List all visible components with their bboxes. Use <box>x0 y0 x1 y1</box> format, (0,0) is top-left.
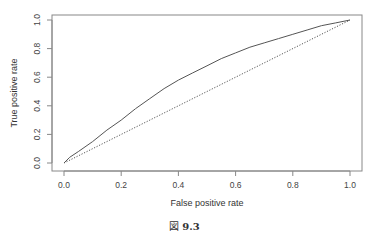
y-tick-label: 0.6 <box>32 71 42 83</box>
roc-chart: 0.00.20.40.60.81.0 0.00.20.40.60.81.0 Fa… <box>0 0 369 238</box>
plot-frame <box>52 15 362 171</box>
baseline-diagonal-line <box>64 20 350 163</box>
y-tick-label: 0.2 <box>32 128 42 140</box>
y-tick-label: 0.0 <box>32 157 42 169</box>
x-tick-label: 0.6 <box>230 180 242 190</box>
series-layer <box>64 20 350 163</box>
figure-caption: 図9.3 <box>0 218 369 233</box>
x-tick-label: 0.2 <box>115 180 127 190</box>
figure-label: 図 <box>169 221 179 232</box>
y-tick-label: 0.4 <box>32 100 42 112</box>
x-tick-label: 0.0 <box>58 180 70 190</box>
x-tick-label: 0.4 <box>172 180 184 190</box>
x-axis-label: False positive rate <box>170 198 243 208</box>
x-tick-label: 1.0 <box>344 180 356 190</box>
x-axis: 0.00.20.40.60.81.0 <box>58 171 356 190</box>
y-tick-label: 0.8 <box>32 42 42 54</box>
y-tick-label: 1.0 <box>32 14 42 26</box>
figure-number: 9.3 <box>182 221 199 232</box>
y-axis: 0.00.20.40.60.81.0 <box>32 14 52 169</box>
y-axis-label: True positive rate <box>9 58 19 127</box>
x-tick-label: 0.8 <box>287 180 299 190</box>
